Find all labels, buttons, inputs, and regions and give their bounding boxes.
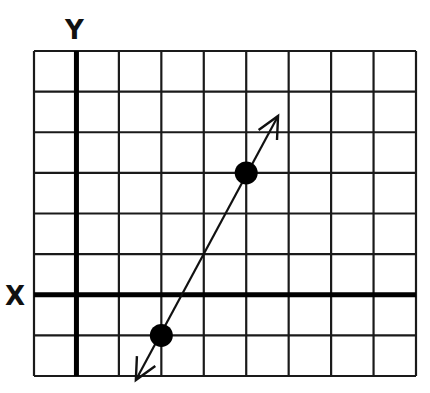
data-point — [150, 324, 173, 347]
coordinate-grid — [0, 0, 430, 393]
data-point — [235, 161, 258, 184]
